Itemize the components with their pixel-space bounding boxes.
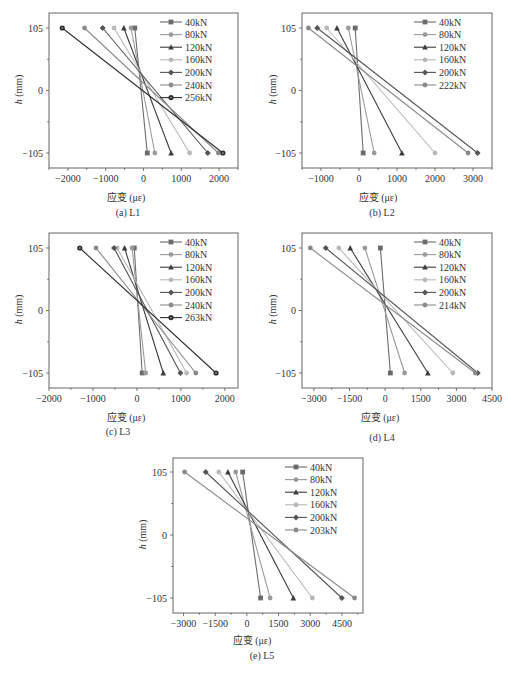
x-tick-label: 2000 [209,173,229,184]
data-point [268,596,273,601]
x-axis-ticks: −2000−1000010002000 [36,388,235,404]
data-point [177,370,183,376]
legend-label: 40kN [310,462,332,473]
legend-label: 263kN [185,312,212,323]
legend-label: 200kN [439,67,466,78]
y-tick-label: 0 [291,85,296,96]
data-point [402,371,407,376]
data-point [466,151,471,156]
x-axis-ticks: −3000−15000150030004500 [171,613,358,629]
legend-item: 80kN [414,29,461,40]
legend-marker-icon [294,502,299,507]
data-point [112,26,117,31]
y-tick-label: −105 [22,368,43,379]
data-point [399,150,405,155]
legend-label: 203kN [310,525,337,536]
legend-item: 263kN [160,312,212,323]
legend-label: 120kN [310,487,337,498]
x-tick-label: 1000 [171,173,191,184]
figure-caption: (d) L4 [369,432,394,443]
data-point [308,246,313,251]
legend-marker-icon [423,20,428,25]
legend-item: 240kN [160,80,212,91]
legend-label: 214kN [439,300,466,311]
data-point [94,246,99,251]
x-tick-label: 3000 [463,173,483,184]
legend-label: 200kN [185,287,212,298]
series-40kN [378,246,393,376]
y-axis-label: h (mm) [13,290,24,330]
y-axis-ticks: 1050−105 [275,243,302,379]
data-point [334,25,340,30]
series-160kN [336,246,455,376]
legend-label: 40kN [185,17,207,28]
legend-marker-icon [169,20,174,25]
x-axis-ticks: −10000100020003000 [302,168,492,184]
legend-item: 160kN [160,274,212,285]
legend: 40kN80kN120kN160kN200kN203kN [285,462,337,536]
data-point [121,25,127,30]
x-axis-label: 应变 (με) [107,189,146,204]
legend-item: 120kN [414,262,466,273]
legend-label: 200kN [310,512,337,523]
legend-marker-icon [294,528,299,533]
series-120kN [225,469,296,600]
figure-caption: (b) L2 [369,207,394,218]
legend-item: 160kN [414,274,466,285]
legend-marker-icon [169,83,174,88]
data-point [184,371,189,376]
y-axis-ticks: 1050−105 [22,23,49,159]
legend-item: 40kN [160,17,207,28]
legend-item: 214kN [414,300,466,311]
figure-caption: (c) L3 [106,426,131,437]
legend-item: 240kN [160,300,212,311]
series-40kN [353,26,366,156]
data-point [324,26,329,31]
data-point [160,370,166,375]
legend-label: 80kN [310,474,332,485]
series-120kN [121,25,174,155]
figure-caption: (e) L5 [250,650,275,661]
legend-item: 160kN [160,54,212,65]
x-tick-label: 0 [383,393,388,404]
series-120kN [334,25,405,155]
data-point [182,470,187,475]
legend-item: 200kN [414,67,466,78]
legend-marker-icon [294,465,299,470]
legend: 40kN80kN120kN160kN200kN222kN [414,17,466,91]
legend-item: 200kN [414,287,466,298]
x-tick-label: 2000 [215,393,235,404]
legend-marker-icon [293,514,299,520]
legend-label: 80kN [439,29,461,40]
legend-marker-icon [169,32,174,37]
data-point [336,246,341,251]
x-tick-label: −2000 [36,393,62,404]
figure-caption: (a) L1 [116,207,141,218]
legend: 40kN80kN120kN160kN200kN240kN263kN [160,237,212,324]
legend-marker-icon [169,57,174,62]
data-point [310,596,315,601]
data-point [291,595,297,600]
data-point [122,245,128,250]
legend-label: 240kN [185,80,212,91]
legend-marker-icon [168,69,174,75]
chart-panel-l4: 1050−105−3000−1500015003000450040kN80kN1… [254,225,508,450]
legend-label: 80kN [185,249,207,260]
x-axis-ticks: −3000−15000150030004500 [301,388,502,404]
data-point [168,150,174,155]
y-tick-label: 0 [291,305,296,316]
data-point [378,246,383,251]
y-axis-ticks: 1050−105 [22,243,49,379]
legend-marker-icon [169,240,174,245]
legend: 40kN80kN120kN160kN200kN214kN [414,237,466,311]
y-tick-label: 105 [281,243,296,254]
x-tick-label: −1500 [202,618,228,629]
chart-panel-l5: 1050−105−3000−1500015003000450040kN80kN1… [120,450,388,676]
y-tick-label: −105 [275,148,296,159]
data-point [372,151,377,156]
x-tick-label: −3000 [301,393,327,404]
legend-item: 203kN [285,525,337,536]
legend-label: 120kN [185,262,212,273]
series-160kN [115,246,189,376]
legend-label: 160kN [439,54,466,65]
